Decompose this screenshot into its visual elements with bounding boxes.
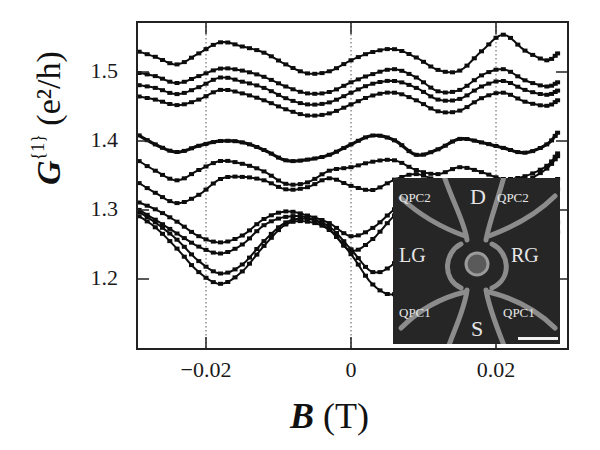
data-marker [262, 244, 267, 248]
data-marker [341, 146, 346, 150]
data-marker [298, 112, 303, 116]
data-marker [196, 168, 201, 172]
data-marker [240, 269, 245, 273]
data-marker [414, 172, 419, 176]
data-marker [218, 240, 223, 244]
data-marker [196, 74, 201, 78]
data-marker [436, 89, 441, 93]
data-marker [544, 142, 549, 146]
data-marker [515, 85, 520, 89]
data-marker [175, 103, 180, 107]
data-marker [370, 283, 375, 287]
data-marker [538, 83, 543, 87]
data-marker [436, 68, 441, 72]
data-marker [254, 177, 259, 181]
data-marker [204, 71, 209, 75]
data-marker [204, 47, 209, 51]
y-axis-superscript: {1} [28, 134, 48, 160]
data-marker [501, 33, 506, 37]
data-marker [211, 182, 216, 186]
data-marker [305, 185, 310, 189]
data-marker [196, 259, 201, 263]
data-marker [225, 240, 230, 244]
data-marker [392, 91, 397, 95]
data-marker [392, 67, 397, 71]
data-marker [436, 147, 441, 151]
data-marker [167, 91, 172, 95]
data-marker [363, 265, 368, 269]
data-marker [385, 221, 390, 225]
data-marker [225, 271, 230, 275]
data-marker [465, 137, 470, 141]
y-tick-label: 1.3 [58, 196, 118, 222]
data-marker [414, 86, 419, 90]
data-marker [240, 69, 245, 73]
data-marker [167, 215, 172, 219]
data-marker [189, 252, 194, 256]
data-marker [283, 209, 288, 213]
data-marker [523, 88, 528, 92]
data-marker [145, 164, 150, 168]
label-left-gate: LG [399, 244, 426, 267]
data-marker [153, 191, 158, 195]
data-marker [247, 228, 252, 232]
data-marker [479, 140, 484, 144]
data-marker [479, 96, 484, 100]
data-marker [465, 105, 470, 109]
data-marker [508, 81, 513, 85]
data-marker [515, 150, 520, 154]
label-qpc1-right: QPC1 [503, 305, 535, 321]
data-marker [421, 153, 426, 157]
data-marker [305, 114, 310, 118]
data-marker [457, 69, 462, 73]
data-marker [414, 56, 419, 60]
data-marker [204, 188, 209, 192]
data-marker [233, 139, 238, 143]
data-marker [160, 232, 165, 236]
data-marker [291, 210, 296, 214]
data-marker [283, 158, 288, 162]
data-marker [269, 181, 274, 185]
data-marker [312, 92, 317, 96]
data-marker [486, 70, 491, 74]
data-marker [276, 93, 281, 97]
data-marker [515, 97, 520, 101]
data-marker [523, 78, 528, 82]
data-marker [392, 138, 397, 142]
data-marker [167, 199, 172, 203]
data-marker [494, 36, 499, 40]
data-marker [233, 42, 238, 46]
data-marker [555, 89, 560, 93]
device-micrograph-inset: QPC2 D QPC2 LG RG QPC1 S QPC1 [393, 178, 560, 344]
data-marker [508, 36, 513, 40]
data-marker [472, 168, 477, 172]
data-marker [327, 153, 332, 157]
data-marker [153, 169, 158, 173]
data-marker [167, 80, 172, 84]
data-marker [240, 263, 245, 267]
data-marker [421, 174, 426, 178]
data-marker [247, 164, 252, 168]
data-marker [269, 54, 274, 58]
data-marker [204, 237, 209, 241]
data-marker [204, 82, 209, 86]
data-marker [233, 267, 238, 271]
data-marker [378, 288, 383, 292]
data-marker [544, 167, 549, 171]
label-drain: D [470, 184, 486, 210]
data-marker [378, 185, 383, 189]
data-marker [450, 90, 455, 94]
data-marker [283, 187, 288, 191]
data-marker [211, 280, 216, 284]
data-marker [363, 274, 368, 278]
data-marker [269, 213, 274, 217]
data-marker [182, 245, 187, 249]
data-marker [145, 52, 150, 56]
data-marker [555, 131, 560, 135]
data-marker [312, 221, 317, 225]
data-marker [370, 72, 375, 76]
data-marker [262, 75, 267, 79]
data-marker [153, 207, 158, 211]
data-marker [254, 229, 259, 233]
data-marker [392, 158, 397, 162]
